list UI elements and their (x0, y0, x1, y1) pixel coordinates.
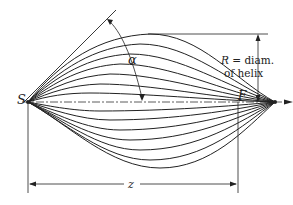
alpha-arrow-bottom-icon (139, 94, 145, 101)
length-arrow-right-icon (230, 182, 237, 187)
length-arrow-left-icon (29, 182, 36, 187)
radius-label-line2: of helix (224, 67, 263, 79)
finish-label: F (237, 89, 247, 103)
helix-geodesic-diagram: S F α R = diam. of helix z (0, 0, 293, 205)
finish-point (273, 100, 277, 104)
length-label: z (127, 178, 134, 191)
start-label: S (17, 92, 26, 107)
radius-label-line1: R = diam. (220, 54, 274, 66)
axis-arrow-icon (284, 100, 293, 105)
radius-arrow-top-icon (256, 34, 261, 41)
angle-label: α (128, 52, 137, 67)
start-point (26, 100, 30, 104)
